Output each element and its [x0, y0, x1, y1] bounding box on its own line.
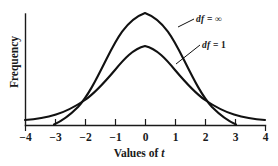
chart-figure: −4 −3 −2 −1 0 1 2 3 4 df = ∞ df = 1 Valu… [0, 0, 278, 166]
x-tick-label-3: 3 [233, 131, 239, 143]
curve-df-1 [25, 46, 265, 120]
leader-line-df-1 [176, 45, 200, 64]
x-tick-label--1: −1 [109, 131, 122, 143]
x-axis-title-text: Values of [114, 147, 159, 159]
curve-label-df-1-value: 1 [221, 40, 226, 50]
curve-label-df-infinity-value: ∞ [215, 14, 222, 24]
x-tick-labels: −4 −3 −2 −1 0 1 2 3 4 [19, 131, 268, 143]
x-axis-title: Values of t [0, 147, 278, 159]
x-tick-label--3: −3 [49, 131, 62, 143]
x-tick-label-0: 0 [143, 131, 149, 143]
x-tick-label-2: 2 [203, 131, 209, 143]
x-tick-label--4: −4 [19, 131, 32, 143]
curve-df-infinity [54, 13, 236, 125]
curve-label-df-infinity-equals: = [204, 14, 215, 24]
curve-label-df-infinity: df = ∞ [196, 14, 222, 24]
distribution-plot: −4 −3 −2 −1 0 1 2 3 4 [0, 0, 278, 166]
x-tick-label-4: 4 [263, 131, 269, 143]
y-axis-title: Frequency [8, 22, 20, 102]
leader-line-df-infinity [178, 19, 194, 27]
x-tick-label--2: −2 [79, 131, 92, 143]
x-axis-title-variable: t [161, 147, 164, 159]
x-tick-label-1: 1 [173, 131, 179, 143]
curve-label-df-1-equals: = [210, 40, 221, 50]
x-axis-ticks [56, 119, 236, 126]
curve-label-df-1: df = 1 [202, 40, 226, 50]
